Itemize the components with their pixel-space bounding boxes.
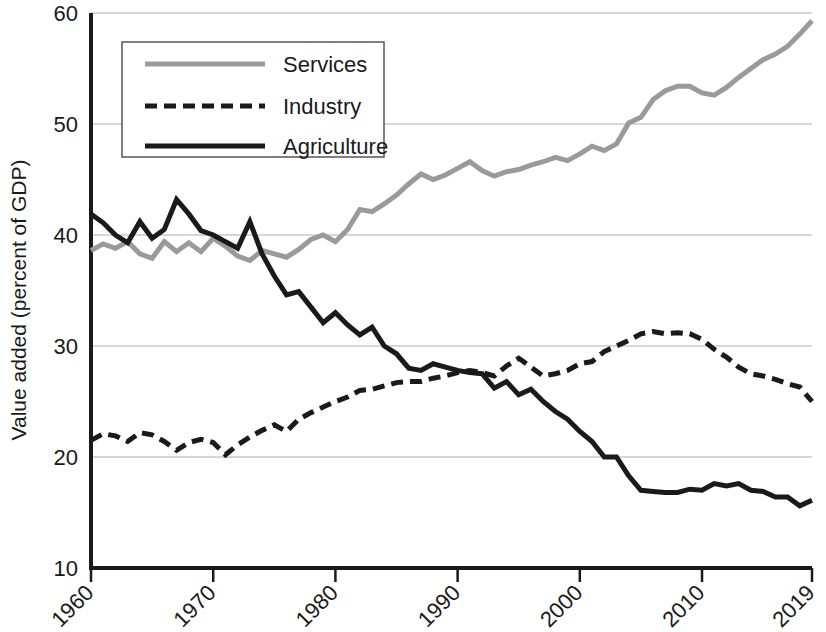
- y-tick-label: 50: [54, 112, 78, 137]
- x-tick-marks: [91, 568, 812, 582]
- x-tick-labels: 1960197019801990200020102019: [46, 580, 819, 632]
- x-tick-label: 1980: [291, 580, 343, 632]
- line-chart: Value added (percent of GDP) 10203040506…: [0, 0, 826, 632]
- x-tick-label: 1960: [46, 580, 98, 632]
- legend-label-agriculture: Agriculture: [283, 134, 388, 159]
- y-tick-label: 30: [54, 334, 78, 359]
- y-tick-label: 40: [54, 223, 78, 248]
- x-tick-label: 2019: [767, 580, 819, 632]
- series-line-agriculture: [91, 199, 812, 505]
- x-tick-label: 2010: [657, 580, 709, 632]
- legend-label-services: Services: [283, 52, 367, 77]
- y-tick-label: 10: [54, 556, 78, 581]
- y-axis-title: Value added (percent of GDP): [7, 160, 30, 441]
- y-tick-labels: 102030405060: [54, 1, 78, 581]
- x-tick-label: 1970: [168, 580, 220, 632]
- chart-container: Value added (percent of GDP) 10203040506…: [0, 0, 826, 632]
- series-line-industry: [91, 332, 812, 455]
- legend: ServicesIndustryAgriculture: [122, 42, 388, 159]
- y-tick-label: 20: [54, 445, 78, 470]
- x-tick-label: 2000: [535, 580, 587, 632]
- y-tick-label: 60: [54, 1, 78, 26]
- legend-label-industry: Industry: [283, 94, 361, 119]
- x-tick-label: 1990: [413, 580, 465, 632]
